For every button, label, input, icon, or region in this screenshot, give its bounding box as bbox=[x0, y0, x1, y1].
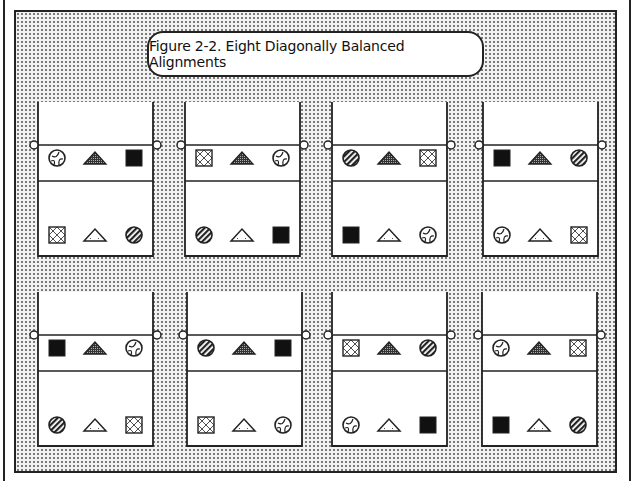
alignment-panel-6 bbox=[186, 290, 336, 455]
top-row bbox=[343, 150, 436, 166]
square-x-icon bbox=[49, 227, 65, 243]
alignment-panel-7 bbox=[331, 290, 481, 455]
square-x-icon bbox=[196, 150, 212, 166]
rod-end-right bbox=[153, 331, 161, 339]
bottom-row bbox=[49, 417, 142, 433]
bottom-row bbox=[493, 417, 586, 433]
circle-stripe-icon bbox=[198, 340, 214, 356]
square-x-icon bbox=[343, 340, 359, 356]
square-black-icon bbox=[49, 340, 65, 356]
circle-stripe-icon bbox=[196, 227, 212, 243]
rod-end-left bbox=[30, 331, 38, 339]
alignment-panel-8 bbox=[481, 290, 631, 455]
top-row bbox=[49, 340, 142, 356]
alignment-panel-3 bbox=[331, 100, 481, 265]
alignment-panel-5 bbox=[37, 290, 187, 455]
circle-stripe-icon bbox=[571, 150, 587, 166]
square-x-icon bbox=[126, 417, 142, 433]
alignment-panel-4 bbox=[482, 100, 632, 265]
alignment-panel-1 bbox=[37, 100, 187, 265]
circle-stripe-icon bbox=[420, 340, 436, 356]
square-black-icon bbox=[343, 227, 359, 243]
wheel-icon bbox=[343, 417, 359, 433]
square-black-icon bbox=[273, 227, 289, 243]
top-row bbox=[343, 340, 436, 356]
square-x-icon bbox=[198, 417, 214, 433]
circle-stripe-icon bbox=[343, 150, 359, 166]
rod-end-right bbox=[300, 141, 308, 149]
circle-stripe-icon bbox=[49, 417, 65, 433]
wheel-icon bbox=[494, 227, 510, 243]
square-x-icon bbox=[571, 227, 587, 243]
square-black-icon bbox=[126, 150, 142, 166]
top-row bbox=[49, 150, 142, 166]
square-black-icon bbox=[493, 417, 509, 433]
wheel-icon bbox=[49, 150, 65, 166]
rod-end-left bbox=[324, 331, 332, 339]
rod-end-left bbox=[179, 331, 187, 339]
rod-end-right bbox=[598, 141, 606, 149]
rod-end-left bbox=[475, 141, 483, 149]
wheel-icon bbox=[420, 227, 436, 243]
rod-end-right bbox=[447, 331, 455, 339]
wheel-icon bbox=[126, 340, 142, 356]
rod-end-left bbox=[177, 141, 185, 149]
square-x-icon bbox=[420, 150, 436, 166]
bottom-row bbox=[343, 227, 436, 243]
bottom-row bbox=[196, 227, 289, 243]
rod-end-left bbox=[30, 141, 38, 149]
alignment-panel-2 bbox=[184, 100, 334, 265]
figure-title-box: Figure 2-2. Eight Diagonally Balanced Al… bbox=[147, 31, 484, 77]
rod-end-right bbox=[153, 141, 161, 149]
rod-end-right bbox=[447, 141, 455, 149]
rod-end-left bbox=[324, 141, 332, 149]
rod-end-left bbox=[474, 331, 482, 339]
square-x-icon bbox=[570, 340, 586, 356]
circle-stripe-icon bbox=[126, 227, 142, 243]
top-row bbox=[198, 340, 291, 356]
bottom-row bbox=[343, 417, 436, 433]
wheel-icon bbox=[275, 417, 291, 433]
wheel-icon bbox=[273, 150, 289, 166]
top-row bbox=[494, 150, 587, 166]
top-row bbox=[196, 150, 289, 166]
bottom-row bbox=[49, 227, 142, 243]
bottom-row bbox=[198, 417, 291, 433]
square-black-icon bbox=[275, 340, 291, 356]
rod-end-right bbox=[302, 331, 310, 339]
rod-end-right bbox=[597, 331, 605, 339]
square-black-icon bbox=[494, 150, 510, 166]
circle-stripe-icon bbox=[570, 417, 586, 433]
bottom-row bbox=[494, 227, 587, 243]
wheel-icon bbox=[493, 340, 509, 356]
top-row bbox=[493, 340, 586, 356]
figure-title: Figure 2-2. Eight Diagonally Balanced Al… bbox=[149, 38, 482, 70]
square-black-icon bbox=[420, 417, 436, 433]
